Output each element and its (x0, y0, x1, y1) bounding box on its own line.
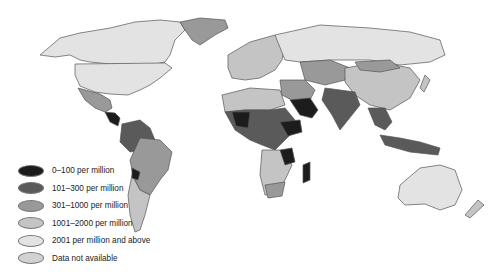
legend-swatch (18, 252, 44, 264)
legend-label: 1001–2000 per million (52, 219, 133, 228)
legend-label: 101–300 per million (52, 184, 123, 193)
region-usa (75, 63, 172, 95)
map-legend: 0–100 per million 101–300 per million 30… (18, 162, 150, 267)
legend-label: 0–100 per million (52, 166, 114, 175)
region-japan (420, 75, 430, 92)
legend-swatch (18, 200, 44, 212)
legend-item: 301–1000 per million (18, 197, 150, 215)
region-southeast-asia (368, 108, 392, 130)
region-greenland (180, 18, 228, 45)
legend-swatch (18, 217, 44, 229)
legend-item: 0–100 per million (18, 162, 150, 180)
region-europe (228, 35, 285, 80)
region-arabia (290, 98, 318, 118)
region-australia (398, 165, 462, 210)
region-north-africa (222, 88, 285, 112)
legend-swatch (18, 165, 44, 177)
region-central-america (105, 112, 120, 126)
legend-label: Data not available (52, 254, 118, 263)
legend-item: 1001–2000 per million (18, 215, 150, 233)
region-new-zealand (465, 200, 484, 218)
legend-swatch (18, 182, 44, 194)
region-central-asia (300, 60, 350, 85)
region-india (322, 88, 360, 130)
legend-label: 301–1000 per million (52, 201, 128, 210)
legend-item: 2001 per million and above (18, 232, 150, 250)
region-russia (275, 25, 445, 65)
legend-item: Data not available (18, 250, 150, 268)
legend-swatch (18, 235, 44, 247)
region-indonesia (380, 135, 440, 155)
region-canada-alaska (40, 20, 185, 65)
region-madagascar (303, 162, 310, 183)
region-south-africa (265, 182, 285, 198)
legend-label: 2001 per million and above (52, 236, 150, 245)
legend-item: 101–300 per million (18, 180, 150, 198)
